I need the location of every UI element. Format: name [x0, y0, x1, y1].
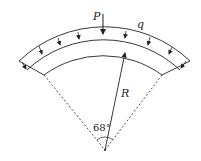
angle-label: 68°	[93, 122, 111, 133]
distributed-load-label: q	[137, 18, 144, 31]
angle-arc	[97, 137, 113, 140]
arch-diagram: R 68° P q	[0, 0, 201, 161]
distributed-load-arrows	[22, 31, 186, 69]
radius-arrow	[105, 53, 125, 150]
radius-label: R	[120, 87, 129, 100]
middle-arc	[27, 40, 180, 70]
center-point	[104, 149, 106, 151]
inner-arc	[44, 56, 162, 75]
right-dashed-radius	[105, 75, 162, 150]
point-load-label: P	[92, 10, 101, 23]
right-end	[162, 61, 190, 75]
left-dashed-radius	[44, 75, 105, 150]
